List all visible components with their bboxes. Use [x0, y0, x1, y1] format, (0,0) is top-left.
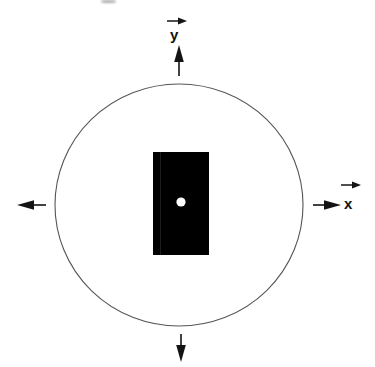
scan-artifact-smudge: [101, 0, 116, 3]
arrow-down-icon: [176, 334, 186, 362]
y-vector-bar-icon: [167, 18, 187, 25]
arrow-right-icon: [313, 200, 341, 210]
diagram-canvas: y x: [0, 0, 375, 367]
diagram-svg: [0, 0, 375, 367]
center-dot-shape: [176, 197, 185, 206]
x-axis-label: x: [344, 196, 352, 211]
arrow-left-icon: [17, 200, 46, 210]
x-vector-bar-icon: [341, 182, 361, 189]
y-axis-label: y: [170, 27, 178, 42]
arrow-up-icon: [174, 45, 184, 76]
